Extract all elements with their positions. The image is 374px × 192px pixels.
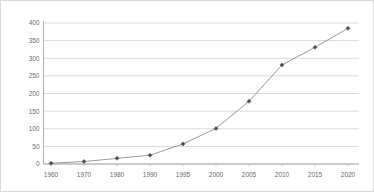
series-line: [51, 28, 348, 163]
x-tick-label: 1960: [44, 171, 59, 178]
y-tick-label: 0: [36, 160, 40, 167]
data-point-marker: [346, 26, 350, 30]
y-tick-label: 50: [32, 143, 40, 150]
y-tick-label: 250: [29, 72, 40, 79]
data-point-marker: [313, 45, 317, 49]
data-point-marker: [49, 161, 53, 165]
y-tick-label: 350: [29, 37, 40, 44]
x-tick-label: 2015: [308, 171, 323, 178]
gridlines: [44, 23, 360, 164]
y-tick-label: 200: [29, 90, 40, 97]
x-tick-label: 1980: [110, 171, 125, 178]
x-tick-label: 1995: [176, 171, 191, 178]
y-tick-label: 100: [29, 125, 40, 132]
chart-frame: 050100150200250300350400 196019701980199…: [0, 0, 374, 192]
data-point-marker: [181, 142, 185, 146]
y-tick-label: 400: [29, 19, 40, 26]
data-point-marker: [148, 153, 152, 157]
x-tick-label: 1970: [77, 171, 92, 178]
x-tick-label: 2020: [341, 171, 356, 178]
x-tick-label: 2005: [242, 171, 257, 178]
x-tick-label: 1990: [143, 171, 158, 178]
data-point-markers: [49, 26, 350, 165]
data-point-marker: [82, 160, 86, 164]
data-series-line: [51, 28, 348, 163]
y-tick-label: 300: [29, 55, 40, 62]
y-tick-label: 150: [29, 108, 40, 115]
x-tick-label: 2000: [209, 171, 224, 178]
x-axis-tick-labels: 1960197019801990199520002005201020152020: [44, 171, 356, 178]
line-chart: 050100150200250300350400 196019701980199…: [1, 1, 374, 192]
x-tick-label: 2010: [275, 171, 290, 178]
data-point-marker: [115, 156, 119, 160]
y-axis-tick-labels: 050100150200250300350400: [29, 19, 40, 167]
